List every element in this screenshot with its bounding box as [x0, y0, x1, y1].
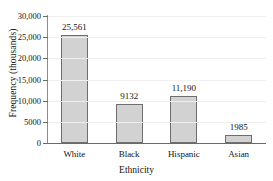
bar-value-label: 11,190 [154, 84, 214, 93]
gridline [47, 37, 266, 38]
y-axis-tick-label: 10,000 [1, 97, 41, 106]
gridline [47, 101, 266, 102]
y-axis-tick [43, 101, 48, 102]
y-axis-tick [43, 58, 48, 59]
gridline [47, 58, 266, 59]
x-axis-tick-label: Asian [204, 150, 273, 159]
bar [116, 104, 143, 143]
y-axis-tick [43, 143, 48, 144]
gridline [47, 16, 266, 17]
y-axis-tick [43, 122, 48, 123]
bar [170, 96, 197, 143]
bar [225, 135, 252, 143]
plot-area: 25,561913211,1901985 [47, 16, 266, 143]
y-axis-tick-labels: 0500010,00015,00020,00025,00030,000 [0, 0, 41, 181]
y-axis-tick [43, 16, 48, 17]
x-axis-title: Ethnicity [0, 165, 273, 175]
y-axis-tick-label: 15,000 [1, 76, 41, 85]
y-axis-tick-label: 25,000 [1, 33, 41, 42]
bar [61, 35, 88, 143]
y-axis-tick-label: 0 [1, 139, 41, 148]
x-axis-spine [44, 143, 266, 144]
y-axis-tick-label: 30,000 [1, 12, 41, 21]
gridline [47, 80, 266, 81]
y-axis-tick-label: 20,000 [1, 54, 41, 63]
bar-value-label: 25,561 [44, 23, 104, 32]
bar-chart: Frequency (thousands) 0500010,00015,0002… [0, 0, 273, 181]
gridline [47, 122, 266, 123]
bar-value-label: 1985 [209, 123, 269, 132]
y-axis-tick-label: 5000 [1, 118, 41, 127]
y-axis-tick [43, 37, 48, 38]
y-axis-tick [43, 80, 48, 81]
